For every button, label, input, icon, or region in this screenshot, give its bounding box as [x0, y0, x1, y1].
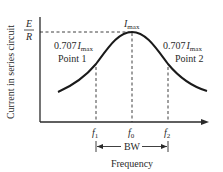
x-axis-arrow-icon: [201, 119, 209, 125]
bandwidth-label: BW: [124, 141, 141, 152]
y-axis-label: Current in series circuit: [5, 25, 16, 119]
x-tick-f0: f0: [128, 127, 135, 140]
x-tick-f2: f2: [164, 127, 171, 140]
point2-value-label: 0.707Imax: [163, 40, 202, 53]
x-axis-label: Frequency: [111, 158, 153, 169]
bw-right-arrow-icon: [161, 144, 167, 149]
point1-value-label: 0.707Imax: [54, 40, 93, 53]
point2-name-label: Point 2: [175, 53, 204, 64]
resonance-diagram: E R Current in series circuit Imax 0.707…: [0, 0, 223, 172]
bw-left-arrow-icon: [97, 144, 103, 149]
y-top-numerator: E: [25, 18, 32, 29]
x-tick-f1: f1: [92, 127, 99, 140]
point1-name-label: Point 1: [58, 53, 87, 64]
y-top-denominator: R: [25, 31, 32, 42]
peak-label: Imax: [123, 18, 140, 31]
